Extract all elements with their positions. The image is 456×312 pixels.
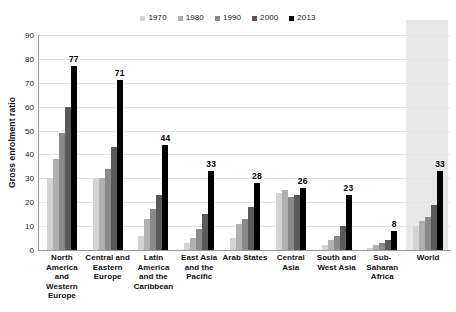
gridline-0 — [38, 250, 450, 251]
bar-value-label-1: 77 — [69, 54, 79, 64]
bar-2013-4[interactable] — [208, 171, 214, 250]
legend-label-1980: 1980 — [186, 14, 204, 22]
bar-2013-6[interactable] — [300, 188, 306, 250]
legend-item-2013[interactable]: 2013 — [289, 14, 315, 22]
category-label-line: and the — [176, 263, 222, 273]
bar-group-9: 33 — [405, 35, 451, 250]
bar-value-label-5: 28 — [252, 171, 262, 181]
bar-group-5: 28 — [222, 35, 268, 250]
category-label-line: America and — [39, 263, 85, 282]
bar-group-1: 77 — [39, 35, 85, 250]
category-label-3: LatinAmericaand theCaribbean — [131, 253, 177, 291]
y-tick-label-40: 40 — [25, 150, 34, 159]
category-label-line: Latin — [131, 253, 177, 263]
bar-2013-2[interactable] — [117, 80, 123, 250]
bar-2013-1[interactable] — [71, 66, 77, 250]
plot-area: 0102030405060708090 77714433282623833 — [38, 35, 450, 250]
y-tick-label-0: 0 — [30, 246, 34, 255]
x-axis-category-labels: NorthAmerica andWesternEuropeCentral and… — [39, 253, 450, 311]
bars-container — [39, 35, 85, 250]
grouped-bar-chart: 19701980199020002013 Gross enrolment rat… — [0, 0, 456, 312]
category-label-line: Eastern — [85, 263, 131, 273]
category-label-line: West Asia — [314, 263, 360, 273]
bar-group-8: 8 — [359, 35, 405, 250]
category-label-line: North — [39, 253, 85, 263]
y-tick-label-70: 70 — [25, 78, 34, 87]
category-label-9: World — [405, 253, 451, 263]
bars-container — [359, 35, 405, 250]
category-label-line: South and — [314, 253, 360, 263]
legend-item-1980[interactable]: 1980 — [178, 14, 204, 22]
category-label-line: East Asia — [176, 253, 222, 263]
category-label-8: Sub-SaharanAfrica — [359, 253, 405, 282]
category-label-4: East Asiaand thePacific — [176, 253, 222, 282]
y-tick-label-90: 90 — [25, 31, 34, 40]
category-label-7: South andWest Asia — [314, 253, 360, 272]
legend-label-2013: 2013 — [297, 14, 315, 22]
y-tick-label-20: 20 — [25, 198, 34, 207]
category-label-line: Sub-Saharan — [359, 253, 405, 272]
bar-group-2: 71 — [85, 35, 131, 250]
category-label-1: NorthAmerica andWesternEurope — [39, 253, 85, 301]
bars-container — [176, 35, 222, 250]
bar-value-label-8: 8 — [392, 219, 397, 229]
bars-container — [314, 35, 360, 250]
bars-container — [222, 35, 268, 250]
bars-container — [405, 35, 451, 250]
category-label-line: Pacific — [176, 272, 222, 282]
category-label-line: America — [131, 263, 177, 273]
category-label-line: Africa — [359, 272, 405, 282]
bars-container — [85, 35, 131, 250]
category-label-5: Arab States — [222, 253, 268, 263]
y-tick-label-10: 10 — [25, 222, 34, 231]
bar-2013-5[interactable] — [254, 183, 260, 250]
bar-group-6: 26 — [268, 35, 314, 250]
category-label-line: Central and — [85, 253, 131, 263]
category-label-line: Central — [268, 253, 314, 263]
category-label-line: Europe — [85, 272, 131, 282]
legend-swatch-1990 — [215, 16, 220, 21]
category-label-2: Central andEasternEurope — [85, 253, 131, 282]
legend-swatch-2013 — [289, 16, 294, 21]
legend-label-1970: 1970 — [148, 14, 166, 22]
category-label-6: CentralAsia — [268, 253, 314, 272]
category-label-line: Europe — [39, 291, 85, 301]
y-tick-label-30: 30 — [25, 174, 34, 183]
y-tick-label-50: 50 — [25, 126, 34, 135]
bar-group-7: 23 — [314, 35, 360, 250]
legend-swatch-2000 — [252, 16, 257, 21]
legend-item-1970[interactable]: 1970 — [140, 14, 166, 22]
bar-value-label-9: 33 — [435, 159, 445, 169]
bar-value-label-3: 44 — [160, 133, 170, 143]
category-label-line: Western — [39, 282, 85, 292]
category-label-line: Caribbean — [131, 282, 177, 292]
chart-legend: 19701980199020002013 — [0, 14, 456, 22]
category-label-line: and the — [131, 272, 177, 282]
legend-swatch-1970 — [140, 16, 145, 21]
bar-value-label-2: 71 — [115, 68, 125, 78]
y-tick-label-80: 80 — [25, 54, 34, 63]
category-label-line: Arab States — [222, 253, 268, 263]
bar-2013-9[interactable] — [437, 171, 443, 250]
bar-group-4: 33 — [176, 35, 222, 250]
y-axis-title: Gross enrolment ratio — [6, 35, 18, 250]
bar-2013-3[interactable] — [162, 145, 168, 250]
category-label-line: Asia — [268, 263, 314, 273]
legend-item-1990[interactable]: 1990 — [215, 14, 241, 22]
bar-group-3: 44 — [131, 35, 177, 250]
legend-label-2000: 2000 — [260, 14, 278, 22]
bar-groups: 77714433282623833 — [39, 35, 450, 250]
y-tick-label-60: 60 — [25, 102, 34, 111]
bar-2013-8[interactable] — [391, 231, 397, 250]
bars-container — [268, 35, 314, 250]
bar-value-label-6: 26 — [298, 176, 308, 186]
bar-2013-7[interactable] — [346, 195, 352, 250]
legend-label-1990: 1990 — [223, 14, 241, 22]
legend-swatch-1980 — [178, 16, 183, 21]
category-label-line: World — [405, 253, 451, 263]
legend-item-2000[interactable]: 2000 — [252, 14, 278, 22]
bar-value-label-4: 33 — [206, 159, 216, 169]
bar-value-label-7: 23 — [344, 183, 354, 193]
